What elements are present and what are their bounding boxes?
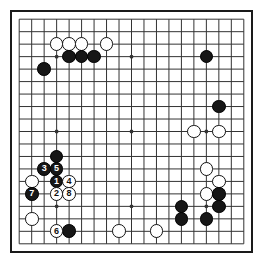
numbered-stone[interactable]: 3 xyxy=(37,162,51,176)
white-stone[interactable] xyxy=(100,37,114,51)
numbered-stone[interactable]: 8 xyxy=(62,187,76,201)
white-stone[interactable] xyxy=(25,212,39,226)
move-number-label: 7 xyxy=(29,189,34,198)
numbered-stone[interactable]: 7 xyxy=(25,187,39,201)
white-stone[interactable] xyxy=(150,224,164,238)
black-stone[interactable] xyxy=(175,212,189,226)
move-number-label: 3 xyxy=(42,164,47,173)
black-stone[interactable] xyxy=(87,50,101,64)
black-stone[interactable] xyxy=(37,62,51,76)
black-stone[interactable] xyxy=(212,200,226,214)
black-stone[interactable] xyxy=(200,212,214,226)
black-stone[interactable] xyxy=(62,50,76,64)
numbered-stone[interactable]: 5 xyxy=(50,162,64,176)
move-number-label: 2 xyxy=(54,189,59,198)
white-stone[interactable] xyxy=(212,125,226,139)
white-stone[interactable] xyxy=(200,162,214,176)
white-stone[interactable] xyxy=(112,224,126,238)
numbered-stone[interactable]: 6 xyxy=(50,224,64,238)
move-number-label: 8 xyxy=(67,189,72,198)
move-number-label: 6 xyxy=(54,226,59,235)
white-stone[interactable] xyxy=(187,125,201,139)
white-stone[interactable] xyxy=(75,37,89,51)
black-stone[interactable] xyxy=(200,50,214,64)
move-number-label: 5 xyxy=(54,164,59,173)
go-board[interactable]: 35147286 xyxy=(10,10,253,253)
white-stone[interactable] xyxy=(62,37,76,51)
black-stone[interactable] xyxy=(62,224,76,238)
stone-layer: 35147286 xyxy=(12,12,255,255)
move-number-label: 1 xyxy=(54,176,59,185)
go-diagram-root: 35147286 xyxy=(0,0,263,275)
black-stone[interactable] xyxy=(212,100,226,114)
move-number-label: 4 xyxy=(67,176,72,185)
black-stone[interactable] xyxy=(212,187,226,201)
